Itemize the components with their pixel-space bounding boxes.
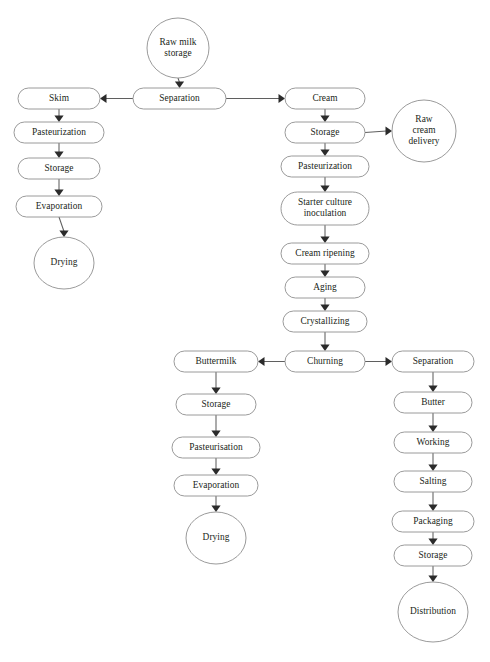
node-label-raw_milk_storage: Raw milk: [159, 37, 196, 47]
flowchart-canvas: Raw milkstorageSeparationSkimPasteurizat…: [0, 0, 490, 662]
node-label-working: Working: [417, 437, 450, 447]
node-cream_pasteurization: Pasteurization: [281, 156, 369, 177]
node-label-buttermilk_storage: Storage: [202, 399, 231, 409]
node-label-salting: Salting: [420, 476, 447, 486]
edge-arrowhead-icon: [175, 82, 184, 89]
node-label-skim_storage: Storage: [45, 163, 74, 173]
node-raw_cream_delivery: Rawcreamdelivery: [392, 100, 456, 162]
edge-e-skim-pasteurization: [54, 109, 63, 122]
edge-e-butter-working: [428, 413, 437, 432]
edge-e-churning-separation: [365, 357, 392, 366]
node-label-separation_bottom: Separation: [413, 356, 454, 366]
node-layer: Raw milkstorageSeparationSkimPasteurizat…: [14, 18, 474, 642]
node-separation_bottom: Separation: [392, 351, 474, 372]
edge-arrowhead-icon: [386, 126, 393, 135]
edge-e-aging-crystallizing: [320, 298, 329, 311]
node-label-raw_milk_storage: storage: [164, 48, 191, 58]
node-label-raw_cream_delivery: delivery: [408, 136, 439, 146]
node-label-crystallizing: Crystallizing: [300, 316, 349, 326]
node-raw_milk_storage: Raw milkstorage: [147, 18, 209, 78]
node-cream_ripening: Cream ripening: [281, 243, 369, 264]
node-cream_storage: Storage: [285, 122, 365, 143]
edge-arrowhead-icon: [100, 94, 107, 103]
edge-arrowhead-icon: [428, 426, 437, 433]
edge-e-working-salting: [428, 453, 437, 471]
edge-e-pasteurization-starter: [320, 177, 329, 192]
edge-arrowhead-icon: [279, 94, 286, 103]
node-skim_pasteurization: Pasteurization: [14, 122, 104, 143]
node-packaging: Packaging: [392, 511, 474, 532]
node-label-butter_storage: Storage: [419, 550, 448, 560]
edge-arrowhead-icon: [428, 539, 437, 546]
node-label-aging: Aging: [313, 282, 337, 292]
node-label-skim: Skim: [49, 93, 70, 103]
node-distribution: Distribution: [398, 582, 468, 642]
node-buttermilk: Buttermilk: [174, 351, 258, 372]
edge-e-buttermilk-storage: [211, 372, 220, 394]
node-crystallizing: Crystallizing: [283, 311, 367, 332]
flowchart-svg: Raw milkstorageSeparationSkimPasteurizat…: [0, 0, 490, 662]
edge-e-pasteurisation-evaporation: [211, 458, 220, 475]
edge-e-separation-butter: [428, 372, 437, 392]
edge-arrowhead-icon: [428, 465, 437, 472]
node-label-raw_cream_delivery: cream: [412, 125, 436, 135]
node-buttermilk_storage: Storage: [176, 394, 256, 415]
edge-arrowhead-icon: [258, 357, 265, 366]
edge-e-bmevaporation-drying: [211, 496, 220, 512]
node-label-skim_evaporation: Evaporation: [36, 201, 83, 211]
edge-e-storage-pasteurization: [320, 143, 329, 156]
edge-e-storage-evaporation: [54, 179, 63, 196]
node-working: Working: [394, 432, 472, 453]
node-salting: Salting: [394, 471, 472, 492]
node-starter_culture: Starter cultureinoculation: [281, 192, 369, 225]
node-label-buttermilk_pasteurisation: Pasteurisation: [189, 442, 243, 452]
node-buttermilk_drying: Drying: [186, 512, 246, 564]
node-label-churning: Churning: [307, 356, 343, 366]
node-skim_storage: Storage: [18, 158, 100, 179]
node-label-raw_cream_delivery: Raw: [415, 114, 433, 124]
node-label-packaging: Packaging: [413, 516, 453, 526]
node-skim: Skim: [18, 88, 100, 109]
node-skim_drying: Drying: [34, 237, 94, 289]
edge-e-starter-ripening: [320, 225, 329, 243]
node-skim_evaporation: Evaporation: [16, 196, 102, 217]
node-butter_storage: Storage: [394, 545, 472, 566]
edge-arrowhead-icon: [320, 150, 329, 157]
edge-arrowhead-icon: [54, 190, 63, 197]
edge-arrowhead-icon: [428, 386, 437, 393]
edge-arrowhead-icon: [320, 345, 329, 352]
edge-arrowhead-icon: [54, 152, 63, 159]
node-label-butter: Butter: [421, 397, 446, 407]
node-label-cream: Cream: [312, 93, 338, 103]
edge-arrowhead-icon: [386, 357, 393, 366]
edge-arrowhead-icon: [320, 186, 329, 193]
edge-e-crystallizing-churning: [320, 332, 329, 351]
edge-e-churning-buttermilk: [258, 357, 285, 366]
edge-arrowhead-icon: [320, 271, 329, 278]
node-cream: Cream: [285, 88, 365, 109]
edge-e-rawmilk-separation: [175, 78, 184, 88]
edge-e-storage-distribution: [428, 566, 437, 582]
edge-line: [59, 217, 64, 232]
node-label-starter_culture: inoculation: [304, 208, 347, 218]
node-label-buttermilk: Buttermilk: [195, 356, 236, 366]
edge-arrowhead-icon: [211, 388, 220, 395]
node-label-cream_storage: Storage: [311, 127, 340, 137]
edge-e-cream-storage: [320, 109, 329, 122]
node-separation_top: Separation: [133, 88, 226, 109]
node-label-starter_culture: Starter culture: [298, 197, 352, 207]
node-label-cream_ripening: Cream ripening: [295, 248, 355, 258]
edge-arrowhead-icon: [54, 116, 63, 123]
edge-e-pasteurization-storage: [54, 143, 63, 158]
node-buttermilk_pasteurisation: Pasteurisation: [172, 437, 260, 458]
edge-arrowhead-icon: [428, 576, 437, 583]
edge-e-salting-packaging: [428, 492, 437, 511]
edge-arrowhead-icon: [320, 116, 329, 123]
node-label-cream_pasteurization: Pasteurization: [298, 161, 352, 171]
edge-arrowhead-icon: [211, 506, 220, 513]
node-label-skim_pasteurization: Pasteurization: [32, 127, 86, 137]
edge-arrowhead-icon: [211, 431, 220, 438]
node-label-buttermilk_evaporation: Evaporation: [193, 480, 240, 490]
edge-arrowhead-icon: [320, 305, 329, 312]
edge-e-separation-skim: [100, 94, 133, 103]
